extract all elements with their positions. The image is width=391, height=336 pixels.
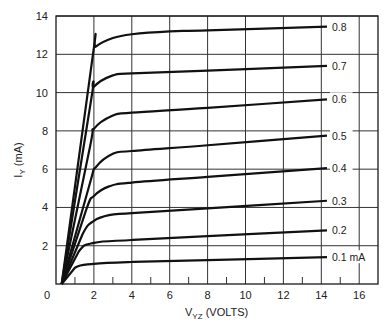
y-tick-label: 12 xyxy=(36,48,48,60)
curve-label: 0.5 xyxy=(332,130,347,142)
x-tick-label: 8 xyxy=(205,289,211,301)
y-tick-label: 6 xyxy=(42,163,48,175)
y-tick-label: 8 xyxy=(42,125,48,137)
x-tick-label: 10 xyxy=(239,289,251,301)
curve-0.4 xyxy=(62,168,327,284)
origin-label: 0 xyxy=(44,289,50,301)
y-axis-title: IY (mA) xyxy=(12,142,27,177)
curve-label: 0.7 xyxy=(332,60,347,72)
iv-characteristic-chart: 246810121416 2468101214 0.1 mA0.20.30.40… xyxy=(0,0,391,336)
curve-0.1-mA xyxy=(62,257,327,284)
curve-label: 0.6 xyxy=(332,93,347,105)
x-tick-label: 14 xyxy=(315,289,327,301)
curve-0.7 xyxy=(62,66,327,284)
x-tick-label: 2 xyxy=(91,289,97,301)
curve-0.6 xyxy=(62,99,327,284)
curve-label: 0.8 xyxy=(332,21,347,33)
x-tick-label: 6 xyxy=(167,289,173,301)
x-axis-title: VYZ (VOLTS) xyxy=(185,306,248,321)
curve-labels: 0.1 mA0.20.30.40.50.60.70.8 xyxy=(330,20,371,264)
plot-frame xyxy=(56,16,378,284)
x-tick-labels: 246810121416 xyxy=(91,289,365,301)
y-tick-label: 10 xyxy=(36,87,48,99)
x-tick-label: 16 xyxy=(353,289,365,301)
y-tick-label: 2 xyxy=(42,240,48,252)
y-tick-label: 4 xyxy=(42,201,48,213)
grid-lines xyxy=(56,16,378,284)
curve-label: 0.2 xyxy=(332,224,347,236)
y-tick-labels: 2468101214 xyxy=(36,10,48,252)
x-tick-label: 4 xyxy=(129,289,135,301)
curve-label: 0.4 xyxy=(332,162,347,174)
y-tick-label: 14 xyxy=(36,10,48,22)
x-tick-label: 12 xyxy=(277,289,289,301)
curve-label: 0.3 xyxy=(332,195,347,207)
curve-label: 0.1 mA xyxy=(332,251,365,263)
